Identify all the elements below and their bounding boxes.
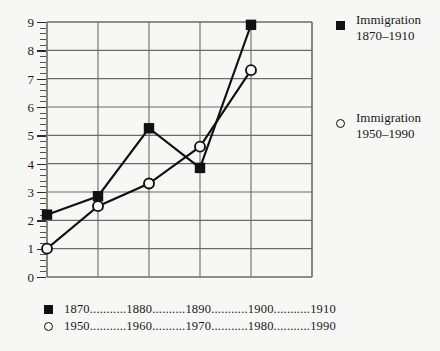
x-axis-row-secondary: 1950...........1960..........1970.......… [44, 318, 344, 335]
filled-square-icon [44, 305, 64, 314]
legend-entry-immigration-1870-1910: Immigration 1870–1910 [336, 12, 440, 44]
y-tick-label: 2 [28, 214, 35, 227]
y-tick-label: 1 [28, 242, 35, 255]
y-tick-label: 4 [28, 157, 35, 170]
legend-label-line1: Immigration [356, 110, 421, 126]
data-series-layer [47, 22, 312, 277]
x-axis: 1870...........1880..........1890.......… [44, 301, 344, 335]
legend-entry-immigration-1950-1990: Immigration 1950–1990 [336, 110, 440, 142]
y-tick-label: 7 [28, 72, 35, 85]
filled-square-icon [336, 12, 356, 34]
y-tick-label: 6 [28, 100, 35, 113]
legend-label-line1: Immigration [356, 12, 421, 28]
plot-area [47, 22, 312, 277]
y-tick-label: 8 [28, 44, 35, 57]
legend-label: Immigration 1950–1990 [356, 110, 421, 142]
y-tick-label: 0 [28, 270, 35, 283]
legend-label-line2: 1870–1910 [356, 28, 421, 44]
y-tick-label: 3 [28, 185, 35, 198]
legend-label: Immigration 1870–1910 [356, 12, 421, 44]
legend-label-line2: 1950–1990 [356, 126, 421, 142]
x-axis-row-secondary-label: 1950...........1960..........1970.......… [64, 319, 336, 334]
x-axis-row-primary-label: 1870...........1880..........1890.......… [64, 302, 336, 317]
x-axis-row-primary: 1870...........1880..........1890.......… [44, 301, 344, 318]
y-tick-label: 9 [28, 16, 35, 29]
immigration-line-chart: 9 8 7 6 5 4 3 2 1 0 1870...........1880.… [0, 0, 440, 351]
open-circle-icon [44, 322, 64, 331]
open-circle-icon [336, 110, 356, 132]
y-tick-label: 5 [28, 129, 35, 142]
